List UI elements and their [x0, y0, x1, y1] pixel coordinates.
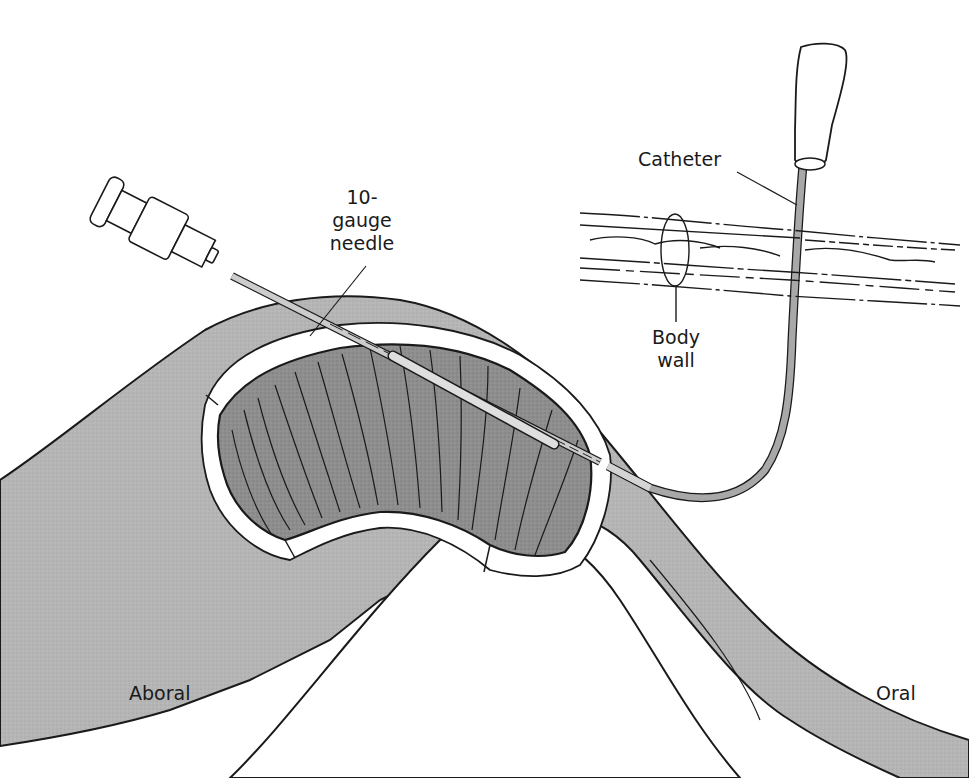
needle-label-line1: 10- — [322, 186, 402, 209]
needle-hub — [88, 175, 227, 280]
catheter-hub — [795, 44, 847, 170]
body-wall-label-line2: wall — [640, 349, 712, 372]
illustration — [0, 0, 969, 778]
needle-label-line2: gauge — [322, 209, 402, 232]
needle-label: 10- gauge needle — [322, 186, 402, 255]
aboral-label: Aboral — [129, 682, 190, 705]
body-wall-label: Body wall — [640, 326, 712, 372]
diagram-figure: 10- gauge needle Catheter Body wall Abor… — [0, 0, 969, 778]
catheter-label: Catheter — [638, 148, 721, 171]
body-wall-label-line1: Body — [640, 326, 712, 349]
body-wall — [580, 213, 960, 322]
needle-label-line3: needle — [322, 232, 402, 255]
oral-label: Oral — [876, 682, 916, 705]
